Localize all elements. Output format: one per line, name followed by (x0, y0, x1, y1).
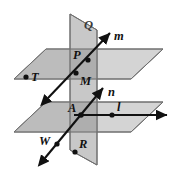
point-m-dot (73, 70, 78, 75)
point-a-dot (78, 112, 84, 118)
point-p-dot (85, 57, 90, 62)
point-label-r: R (78, 137, 87, 151)
line-label-m: m (114, 29, 124, 43)
overlap-lower-left (14, 102, 70, 132)
point-r-dot (72, 149, 77, 154)
point-w-dot (54, 141, 59, 146)
line-label-n: n (108, 85, 115, 99)
point-label-m: M (79, 74, 92, 88)
overlap-upper-left (14, 49, 70, 79)
point-t-dot (23, 74, 28, 79)
line-label-l: l (117, 100, 121, 114)
point-label-w: W (39, 134, 51, 148)
point-label-p: P (73, 48, 81, 62)
plane-label-q: Q (84, 18, 93, 32)
geometry-canvas: Q m n l T P M A W R (0, 0, 174, 171)
geometry-figure: Q m n l T P M A W R (0, 0, 174, 171)
point-i-dot (109, 112, 114, 117)
point-label-a: A (67, 101, 76, 115)
